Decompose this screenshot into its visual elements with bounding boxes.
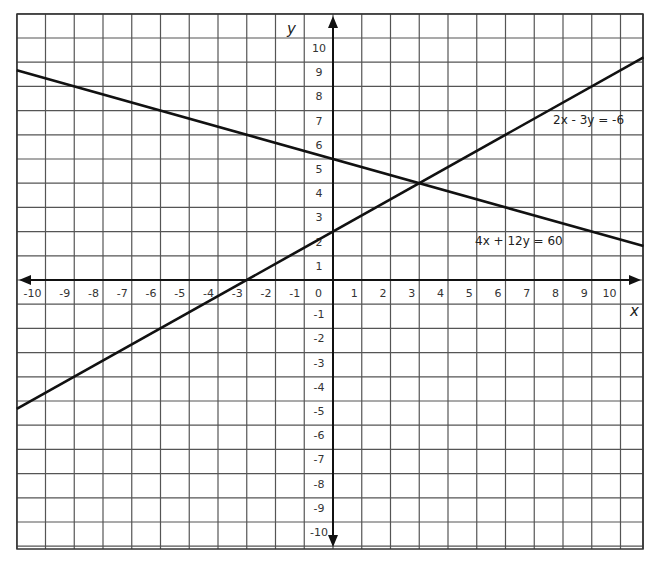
equation-line-2 — [17, 70, 644, 246]
x-axis-label: x — [629, 302, 639, 320]
x-tick-label: -9 — [59, 287, 70, 300]
y-tick-label: -4 — [314, 381, 325, 394]
equation-label-2: 4x + 12y = 60 — [475, 234, 563, 248]
y-tick-label: -10 — [310, 526, 328, 539]
x-tick-label: 1 — [351, 287, 358, 300]
x-tick-label: -1 — [289, 287, 300, 300]
x-tick-label: -3 — [232, 287, 243, 300]
coordinate-plane: -10-9-8-7-6-5-4-3-2-10123456789101098765… — [0, 0, 658, 561]
x-tick-label: 2 — [380, 287, 387, 300]
y-tick-label: 5 — [316, 163, 323, 176]
y-tick-label: 9 — [316, 66, 323, 79]
x-tick-label: -2 — [261, 287, 272, 300]
x-tick-label: -5 — [174, 287, 185, 300]
tick-labels: -10-9-8-7-6-5-4-3-2-10123456789101098765… — [24, 42, 617, 539]
y-axis-label: y — [286, 20, 297, 38]
y-tick-label: 8 — [316, 90, 323, 103]
y-tick-label: -3 — [314, 357, 325, 370]
y-tick-label: -5 — [314, 405, 325, 418]
equation-label-1: 2x - 3y = -6 — [553, 113, 624, 127]
x-tick-label: 5 — [466, 287, 473, 300]
x-tick-label: 9 — [581, 287, 588, 300]
x-tick-label: -10 — [24, 287, 42, 300]
x-tick-label: -8 — [88, 287, 99, 300]
x-tick-label: -7 — [117, 287, 128, 300]
y-tick-label: 6 — [316, 139, 323, 152]
x-tick-label: 3 — [408, 287, 415, 300]
x-tick-label: 6 — [495, 287, 502, 300]
x-tick-label: 0 — [315, 287, 322, 300]
y-tick-label: -7 — [314, 453, 325, 466]
y-tick-label: -2 — [314, 332, 325, 345]
y-tick-label: -8 — [314, 478, 325, 491]
y-tick-label: 4 — [316, 187, 323, 200]
x-tick-label: 10 — [603, 287, 617, 300]
y-tick-label: -6 — [314, 429, 325, 442]
y-tick-label: -9 — [314, 502, 325, 515]
grid-lines — [17, 14, 643, 549]
x-tick-label: 7 — [523, 287, 530, 300]
x-tick-label: -6 — [146, 287, 157, 300]
x-tick-label: 8 — [552, 287, 559, 300]
y-tick-label: 10 — [312, 42, 326, 55]
y-tick-label: 1 — [316, 260, 323, 273]
axes — [19, 16, 641, 547]
y-tick-label: -1 — [314, 308, 325, 321]
y-tick-label: 7 — [316, 115, 323, 128]
y-tick-label: 3 — [316, 211, 323, 224]
x-tick-label: 4 — [437, 287, 444, 300]
